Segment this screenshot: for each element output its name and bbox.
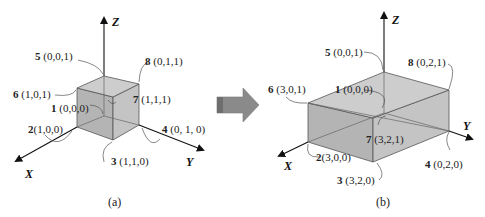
vertex-6-label: 6 (3,0,1) [268,83,306,96]
y-axis-label: Y [186,155,195,169]
z-axis-label: Z [111,15,120,29]
vertex-7-label: 7 (1,1,1) [133,93,171,106]
panel-a: Z X Y 5 (0,0,1) 8 (0,1,1) 6 (1,0,1) 7 (1… [13,15,205,209]
vertex-8-label: 8 (0,1,1) [145,55,183,68]
vertex-5-label: 5 (0,0,1) [325,46,363,59]
vertex-5-label: 5 (0,0,1) [35,50,73,63]
vertex-1-label: 1 (0,0,0) [335,83,373,96]
panel-b: Z X Y 5 (0,0,1) 8 (0,2,1) 6 (3,0,1) 1 (0… [268,13,472,209]
vertex-2-label: 2(3,0,0) [316,151,351,164]
vertex-1-label: 1 (0,0,0) [51,102,89,115]
x-axis-label: X [24,167,34,181]
vertex-7-label: 7 (3,2,1) [366,133,404,146]
vertex-8-label: 8 (0,2,1) [408,56,446,69]
vertex-3-label: 3 (1,1,0) [111,155,149,168]
vertex-6-label: 6 (1,0,1) [13,88,51,101]
transform-arrow-icon [217,88,259,122]
y-axis-label: Y [463,119,472,133]
caption-a: (a) [108,195,121,209]
caption-b: (b) [376,195,390,209]
x-axis [279,142,308,156]
vertex-2-label: 2(1,0,0) [28,123,63,136]
z-axis-label: Z [391,13,400,27]
vertex-4-label: 4 (0, 1, 0) [162,123,205,136]
vertex-4-label: 4 (0,2,0) [425,158,463,171]
x-axis-label: X [283,159,293,173]
rectangular-box [308,72,449,162]
diagram-canvas: Z X Y 5 (0,0,1) 8 (0,1,1) 6 (1,0,1) 7 (1… [0,0,485,217]
vertex-3-label: 3 (3,2,0) [337,174,375,187]
